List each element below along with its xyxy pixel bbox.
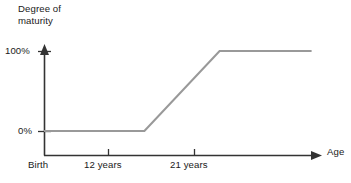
y-axis — [40, 44, 49, 156]
x-tick-label-12-years: 12 years — [84, 159, 122, 171]
chart-plot-area — [0, 0, 351, 183]
y-axis-title-line-2: maturity — [18, 15, 61, 27]
maturity-vs-age-chart: Degree ofmaturity 100% 0% Birth 12 years… — [0, 0, 351, 183]
y-tick-label-0: 0% — [18, 125, 32, 137]
maturity-curve — [44, 51, 312, 131]
y-tick-label-100: 100% — [5, 45, 30, 57]
y-axis-title: Degree ofmaturity — [18, 3, 61, 26]
y-axis-arrowhead-icon — [40, 44, 49, 55]
y-axis-title-line-1: Degree of — [18, 3, 61, 15]
x-tick-label-21-years: 21 years — [170, 159, 208, 171]
x-axis-title: Age — [327, 146, 344, 158]
x-tick-label-birth: Birth — [28, 159, 48, 171]
x-axis-arrowhead-icon — [311, 151, 322, 160]
